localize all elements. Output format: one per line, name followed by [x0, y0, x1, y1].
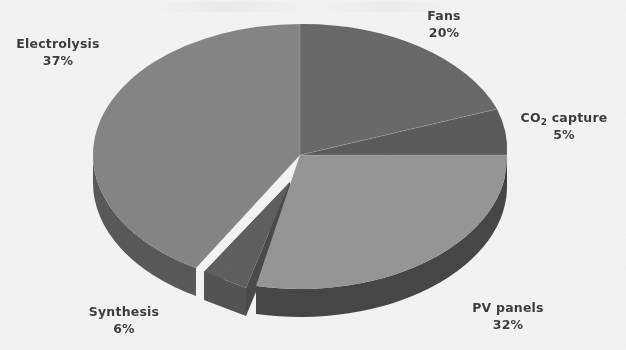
slice-label-electrolysis-name: Electrolysis — [2, 36, 114, 53]
slice-label-electrolysis-value: 37% — [2, 53, 114, 70]
co2-formula-tail: capture — [547, 110, 607, 125]
slice-label-synthesis-value: 6% — [72, 321, 176, 338]
slice-label-pv-panels-value: 32% — [452, 317, 564, 334]
slice-label-co2-capture-name: CO2 capture — [508, 110, 620, 127]
slice-label-synthesis: Synthesis 6% — [72, 304, 176, 337]
slice-label-pv-panels: PV panels 32% — [452, 300, 564, 333]
slice-label-pv-panels-name: PV panels — [452, 300, 564, 317]
slice-label-fans-name: Fans — [398, 8, 490, 25]
slice-label-co2-capture-value: 5% — [508, 127, 620, 144]
slice-label-electrolysis: Electrolysis 37% — [2, 36, 114, 69]
slice-label-fans: Fans 20% — [398, 8, 490, 41]
slice-label-co2-capture: CO2 capture 5% — [508, 110, 620, 143]
pie-chart: Fans 20% CO2 capture 5% PV panels 32% Sy… — [0, 0, 626, 350]
slice-label-fans-value: 20% — [398, 25, 490, 42]
slice-label-synthesis-name: Synthesis — [72, 304, 176, 321]
co2-formula-prefix: CO — [521, 110, 541, 125]
